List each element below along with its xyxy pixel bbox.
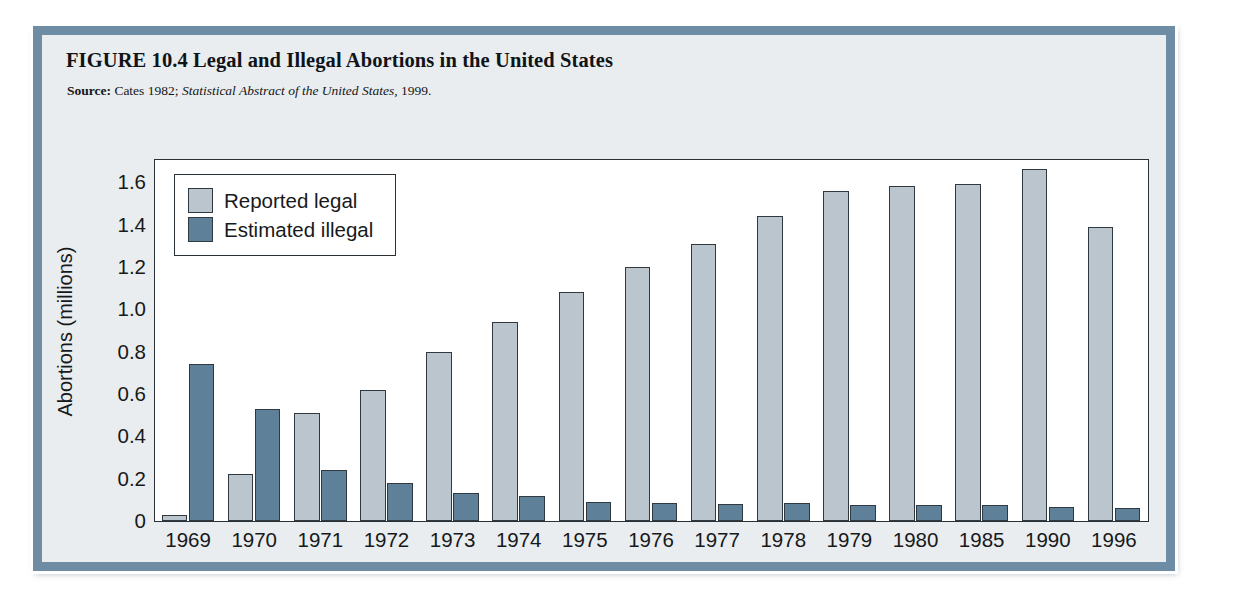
figure-frame: FIGURE 10.4 Legal and Illegal Abortions … bbox=[33, 26, 1175, 571]
bar-1979-estimated-illegal bbox=[850, 505, 876, 521]
bar-1975-estimated-illegal bbox=[586, 502, 612, 521]
x-axis-tick-1971: 1971 bbox=[298, 528, 344, 552]
bar-1972-reported-legal bbox=[360, 390, 386, 521]
y-axis-tick-1_2: 1.2 bbox=[118, 255, 156, 279]
x-axis-tick-1975: 1975 bbox=[562, 528, 608, 552]
bar-1996-reported-legal bbox=[1088, 227, 1114, 521]
x-axis-tick-1980: 1980 bbox=[893, 528, 939, 552]
bar-group-1985 bbox=[949, 160, 1015, 521]
bar-group-1980 bbox=[882, 160, 948, 521]
chart-legend: Reported legalEstimated illegal bbox=[174, 174, 396, 256]
bar-1980-reported-legal bbox=[889, 186, 915, 521]
bar-1977-reported-legal bbox=[691, 244, 717, 521]
legend-swatch-legal bbox=[188, 188, 213, 213]
legend-item-legal: Reported legal bbox=[188, 188, 373, 213]
x-axis-tick-1972: 1972 bbox=[364, 528, 410, 552]
x-axis-tick-1974: 1974 bbox=[496, 528, 542, 552]
bar-1973-reported-legal bbox=[426, 352, 452, 521]
bar-1978-estimated-illegal bbox=[784, 503, 810, 521]
bar-1969-estimated-illegal bbox=[189, 364, 215, 521]
bar-1974-reported-legal bbox=[492, 322, 518, 521]
plot-area: 00.20.40.60.81.01.21.41.6196919701971197… bbox=[154, 159, 1149, 522]
y-axis-tick-1_6: 1.6 bbox=[118, 170, 156, 194]
bar-group-1976 bbox=[618, 160, 684, 521]
bar-1970-estimated-illegal bbox=[255, 409, 281, 521]
x-axis-tick-1990: 1990 bbox=[1025, 528, 1071, 552]
x-axis-tick-1977: 1977 bbox=[694, 528, 740, 552]
bar-1977-estimated-illegal bbox=[718, 504, 744, 521]
x-axis-tick-1970: 1970 bbox=[231, 528, 277, 552]
bar-1972-estimated-illegal bbox=[387, 483, 413, 521]
bar-group-1977 bbox=[684, 160, 750, 521]
bar-group-1979 bbox=[816, 160, 882, 521]
bar-1985-reported-legal bbox=[955, 184, 981, 521]
x-axis-tick-1979: 1979 bbox=[827, 528, 873, 552]
x-axis-tick-1996: 1996 bbox=[1091, 528, 1137, 552]
legend-label-illegal: Estimated illegal bbox=[224, 218, 373, 242]
bar-1971-reported-legal bbox=[294, 413, 320, 521]
bar-group-1990 bbox=[1015, 160, 1081, 521]
bar-group-1974 bbox=[486, 160, 552, 521]
bar-group-1975 bbox=[552, 160, 618, 521]
y-axis-tick-0_6: 0.6 bbox=[118, 382, 156, 406]
legend-label-legal: Reported legal bbox=[224, 189, 357, 213]
bar-1969-reported-legal bbox=[162, 515, 188, 521]
bar-1970-reported-legal bbox=[228, 474, 254, 521]
bar-1976-estimated-illegal bbox=[652, 503, 678, 521]
y-axis-tick-1_4: 1.4 bbox=[118, 213, 156, 237]
bar-group-1973 bbox=[420, 160, 486, 521]
bar-1979-reported-legal bbox=[823, 191, 849, 521]
y-axis-tick-1_0: 1.0 bbox=[118, 297, 156, 321]
bar-1996-estimated-illegal bbox=[1115, 508, 1141, 521]
bar-chart: Abortions (millions) 00.20.40.60.81.01.2… bbox=[42, 35, 1166, 562]
bar-1975-reported-legal bbox=[559, 292, 585, 521]
figure-inner: FIGURE 10.4 Legal and Illegal Abortions … bbox=[42, 35, 1166, 562]
bar-1974-estimated-illegal bbox=[519, 496, 545, 521]
x-axis-tick-1985: 1985 bbox=[959, 528, 1005, 552]
legend-swatch-illegal bbox=[188, 217, 213, 242]
y-axis-tick-0: 0 bbox=[135, 509, 155, 533]
bar-1973-estimated-illegal bbox=[453, 493, 479, 521]
x-axis-tick-1976: 1976 bbox=[628, 528, 674, 552]
y-axis-tick-0_2: 0.2 bbox=[118, 467, 156, 491]
bar-1990-reported-legal bbox=[1022, 169, 1048, 521]
y-axis-title: Abortions (millions) bbox=[54, 182, 77, 482]
bar-group-1996 bbox=[1081, 160, 1147, 521]
x-axis-tick-1978: 1978 bbox=[760, 528, 806, 552]
y-axis-tick-0_4: 0.4 bbox=[118, 424, 156, 448]
x-axis-tick-1973: 1973 bbox=[430, 528, 476, 552]
y-axis-tick-0_8: 0.8 bbox=[118, 340, 156, 364]
bar-1971-estimated-illegal bbox=[321, 470, 347, 521]
bar-1980-estimated-illegal bbox=[916, 505, 942, 521]
x-axis-tick-1969: 1969 bbox=[165, 528, 211, 552]
bar-1990-estimated-illegal bbox=[1049, 507, 1075, 521]
bar-1985-estimated-illegal bbox=[982, 505, 1008, 521]
bar-1976-reported-legal bbox=[625, 267, 651, 521]
bar-1978-reported-legal bbox=[757, 216, 783, 521]
bar-group-1978 bbox=[750, 160, 816, 521]
legend-item-illegal: Estimated illegal bbox=[188, 217, 373, 242]
